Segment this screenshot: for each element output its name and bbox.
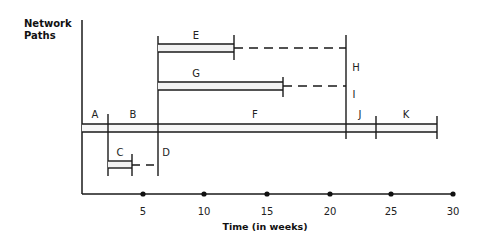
x-tick-label: 15 [261, 206, 274, 217]
activity-label-g: G [192, 68, 200, 79]
x-tick-label: 20 [324, 206, 337, 217]
x-axis-title: Time (in weeks) [222, 221, 307, 232]
activity-label-c: C [117, 147, 124, 158]
activity-label-f: F [252, 109, 258, 120]
activity-c-bar [108, 154, 158, 176]
activity-label-i: I [353, 89, 356, 100]
activity-label-e: E [193, 30, 199, 41]
y-axis-title-line1: Network [24, 18, 72, 29]
activity-label-a: A [92, 109, 99, 120]
x-tick-label: 25 [385, 206, 398, 217]
activity-g-bar [158, 77, 346, 97]
activity-label-d: D [162, 147, 170, 158]
activity-label-k: K [403, 109, 410, 120]
activity-e-bar [158, 35, 346, 60]
y-axis-title-line2: Paths [24, 30, 56, 41]
activity-label-j: J [358, 109, 362, 120]
main-path-bar [82, 35, 437, 176]
x-tick-label: 5 [140, 206, 146, 217]
network-path-diagram: Network Paths 5 10 15 20 25 30 Time (in … [0, 0, 483, 242]
activity-label-h: H [352, 62, 360, 73]
x-tick-label: 30 [447, 206, 460, 217]
x-tick-label: 10 [198, 206, 211, 217]
activity-label-b: B [130, 109, 137, 120]
